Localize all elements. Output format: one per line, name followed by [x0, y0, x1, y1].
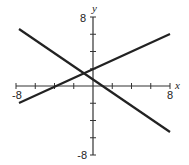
- y-min-label: -8: [77, 149, 87, 161]
- x-max-label: 8: [167, 89, 173, 101]
- y-max-label: 8: [80, 12, 86, 24]
- y-axis-label: y: [91, 2, 97, 14]
- coordinate-plane: y x 8 -8 -8 8: [0, 0, 189, 165]
- x-min-label: -8: [12, 89, 22, 101]
- x-axis-label: x: [174, 79, 180, 91]
